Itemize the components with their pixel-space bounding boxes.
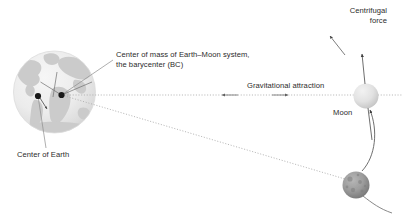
earth-body (14, 51, 96, 133)
center-of-earth-dot (35, 93, 41, 99)
moon-label: Moon (333, 108, 352, 118)
gravitational-attraction-label: Gravitational attraction (247, 81, 324, 91)
leader-centrifugal-force (330, 36, 345, 55)
center-of-earth-label: Center of Earth (17, 150, 69, 160)
moon-upper-sphere (354, 84, 379, 109)
moon-lower-body (343, 172, 370, 199)
barycenter-dot (58, 92, 64, 98)
moon-upper-body (354, 84, 379, 109)
barycenter-lower-moon-axis (62, 95, 346, 179)
centrifugal-arrow-upper (362, 54, 365, 84)
tidal-forces-diagram: Center of mass of Earth–Moon system, the… (0, 0, 402, 215)
centrifugal-force-label: Centrifugal force (325, 6, 387, 26)
orbit-tail-line (363, 196, 392, 213)
orbit-arc-arrow (362, 110, 375, 171)
barycenter-label: Center of mass of Earth–Moon system, the… (116, 50, 249, 70)
